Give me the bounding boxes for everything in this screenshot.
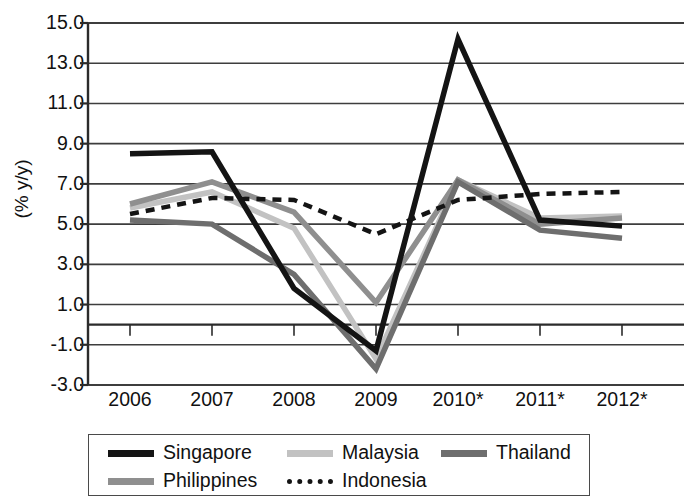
legend-item-philippines[interactable]: Philippines: [108, 467, 257, 495]
x-tick-label: 2011*: [495, 390, 585, 410]
legend-item-thailand[interactable]: Thailand: [441, 439, 571, 467]
x-axis-tick-labels: 20062007200820092010*2011*2012*: [0, 0, 684, 497]
legend-label: Philippines: [163, 471, 257, 491]
x-tick-label: 2006: [85, 390, 175, 410]
legend-label: Indonesia: [342, 471, 427, 491]
legend-row: SingaporeMalaysiaThailand: [89, 439, 589, 467]
legend-label: Singapore: [163, 443, 252, 463]
legend-item-malaysia[interactable]: Malaysia: [287, 439, 419, 467]
x-tick-label: 2007: [167, 390, 257, 410]
legend-swatch-icon: [108, 478, 154, 485]
legend-label: Thailand: [496, 443, 571, 463]
legend-swatch-icon: [287, 479, 333, 484]
x-tick-label: 2010*: [413, 390, 503, 410]
chart-figure: (% y/y) 15.013.011.09.07.05.03.01.0-1.0-…: [0, 0, 684, 497]
x-tick-label: 2012*: [577, 390, 667, 410]
x-tick-label: 2009: [331, 390, 421, 410]
x-tick-label: 2008: [249, 390, 339, 410]
legend-item-singapore[interactable]: Singapore: [108, 439, 252, 467]
legend-swatch-icon: [287, 450, 333, 457]
legend-label: Malaysia: [342, 443, 419, 463]
chart-legend: SingaporeMalaysiaThailand PhilippinesInd…: [88, 434, 590, 496]
legend-swatch-icon: [441, 450, 487, 457]
legend-row: PhilippinesIndonesia: [89, 467, 589, 495]
legend-swatch-icon: [108, 450, 154, 457]
legend-item-indonesia[interactable]: Indonesia: [287, 467, 427, 495]
